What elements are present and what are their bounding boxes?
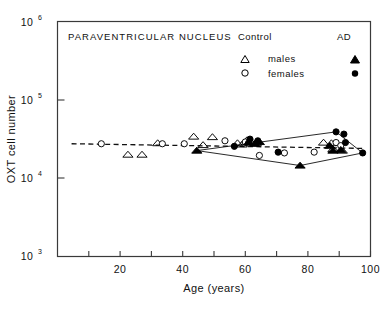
marker-open-circle xyxy=(159,141,165,147)
marker-open-circle xyxy=(181,141,187,147)
x-tick-label-80: 80 xyxy=(302,263,315,275)
x-tick-label-40: 40 xyxy=(176,263,189,275)
marker-filled-circle xyxy=(360,150,366,156)
marker-filled-circle xyxy=(341,131,347,137)
filled-circle-icon xyxy=(352,70,358,76)
y-tick-label-1e3: 10 xyxy=(21,250,34,262)
y-tick-label-1e4: 10 xyxy=(21,172,34,184)
x-tick-label-20: 20 xyxy=(114,263,127,275)
marker-open-circle xyxy=(98,141,104,147)
marker-filled-circle xyxy=(255,138,261,144)
legend-label-females: females xyxy=(268,68,304,79)
figure-container: 10 6 10 5 10 4 10 3 20406080100 OXT cell… xyxy=(0,0,391,309)
legend-group-ad: AD xyxy=(337,31,351,42)
marker-open-circle xyxy=(222,138,228,144)
legend-label-males: males xyxy=(268,53,296,64)
y-tick-exp-3: 3 xyxy=(38,248,42,255)
marker-filled-circle xyxy=(231,143,237,149)
marker-open-circle xyxy=(311,149,317,155)
marker-open-circle xyxy=(281,150,287,156)
scatter-chart: 10 6 10 5 10 4 10 3 20406080100 OXT cell… xyxy=(0,0,391,309)
marker-filled-circle xyxy=(342,139,348,145)
legend-group-control: Control xyxy=(238,31,272,42)
x-axis-title: Age (years) xyxy=(183,282,244,294)
plot-title: PARAVENTRICULAR NUCLEUS xyxy=(68,31,232,42)
y-axis-title: OXT cell number xyxy=(5,95,17,183)
y-tick-exp-6: 6 xyxy=(38,14,42,21)
x-tick-label-60: 60 xyxy=(239,263,252,275)
y-tick-label-1e6: 10 xyxy=(21,16,34,28)
chart-background xyxy=(0,0,391,309)
y-tick-exp-5: 5 xyxy=(38,92,42,99)
x-tick-label-100: 100 xyxy=(361,263,380,275)
marker-filled-circle xyxy=(247,136,253,142)
y-tick-label-1e5: 10 xyxy=(21,94,34,106)
marker-open-circle xyxy=(256,152,262,158)
marker-filled-circle xyxy=(333,129,339,135)
marker-filled-circle xyxy=(275,149,281,155)
y-tick-exp-4: 4 xyxy=(38,170,42,177)
